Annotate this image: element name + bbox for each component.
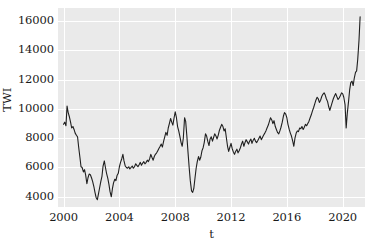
twi-line-path — [64, 17, 361, 200]
plot-area — [58, 8, 365, 207]
chart-figure: TWI 40006000800010000120001400016000 200… — [0, 0, 373, 250]
y-tick-label: 6000 — [2, 162, 54, 174]
y-tick-label: 10000 — [2, 103, 54, 115]
x-axis-label: t — [58, 229, 365, 241]
y-tick-label: 4000 — [2, 191, 54, 203]
y-tick-label: 8000 — [2, 132, 54, 144]
x-tick-label: 2004 — [89, 212, 149, 224]
y-tick-label: 14000 — [2, 45, 54, 57]
x-tick-label: 2012 — [201, 212, 261, 224]
x-tick-label: 2016 — [257, 212, 317, 224]
x-tick-label: 2020 — [313, 212, 373, 224]
y-tick-label: 16000 — [2, 15, 54, 27]
x-tick-label: 2008 — [145, 212, 205, 224]
y-axis-tick-labels: 40006000800010000120001400016000 — [0, 8, 54, 207]
data-series-line — [58, 8, 365, 207]
x-tick-label: 2000 — [34, 212, 94, 224]
y-tick-label: 12000 — [2, 74, 54, 86]
x-axis-tick-labels: 200020042008201220162020 — [58, 212, 365, 228]
